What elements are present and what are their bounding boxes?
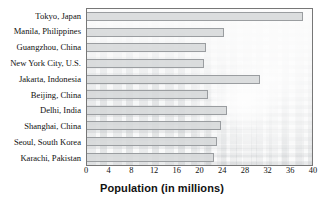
x-tick-label: 24 <box>218 166 226 175</box>
bar[interactable] <box>87 75 260 84</box>
category-label: Seoul, South Korea <box>0 134 84 150</box>
bar-row <box>87 56 312 72</box>
x-tick-label: 40 <box>309 166 317 175</box>
x-tick-label: 36 <box>286 166 294 175</box>
bar[interactable] <box>87 43 206 52</box>
category-label: Guangzhou, China <box>0 40 84 56</box>
x-tick-label: 0 <box>84 166 88 175</box>
x-tick-label: 20 <box>195 166 203 175</box>
category-label: Tokyo, Japan <box>0 8 84 24</box>
x-tick-label: 8 <box>129 166 133 175</box>
bar[interactable] <box>87 121 221 130</box>
category-axis-labels: Tokyo, JapanManila, PhilippinesGuangzhou… <box>0 8 84 166</box>
category-label: New York City, U.S. <box>0 55 84 71</box>
bar-row <box>87 149 312 165</box>
x-axis-title: Population (in millions) <box>0 182 324 194</box>
bar[interactable] <box>87 59 204 68</box>
x-tick-label: 4 <box>107 166 111 175</box>
bar[interactable] <box>87 137 217 146</box>
bar-row <box>87 103 312 119</box>
bar-row <box>87 25 312 41</box>
category-label: Jakarta, Indonesia <box>0 71 84 87</box>
bar[interactable] <box>87 90 208 99</box>
bar-row <box>87 71 312 87</box>
bar-row <box>87 40 312 56</box>
bar[interactable] <box>87 12 303 21</box>
x-tick-label: 12 <box>150 166 158 175</box>
bar-series <box>87 9 312 165</box>
plot-area <box>86 8 313 166</box>
category-label: Manila, Philippines <box>0 24 84 40</box>
bar[interactable] <box>87 153 214 162</box>
value-axis-ticks: 0481216202428323640 <box>86 166 313 180</box>
bar[interactable] <box>87 28 224 37</box>
category-label: Delhi, India <box>0 103 84 119</box>
bar-row <box>87 118 312 134</box>
x-tick-label: 32 <box>263 166 271 175</box>
category-label: Karachi, Pakistan <box>0 150 84 166</box>
x-tick-label: 28 <box>241 166 249 175</box>
category-label: Shanghai, China <box>0 119 84 135</box>
x-tick-label: 16 <box>173 166 181 175</box>
chart-container: Tokyo, JapanManila, PhilippinesGuangzhou… <box>0 0 324 204</box>
bar-row <box>87 87 312 103</box>
bar-row <box>87 134 312 150</box>
bar[interactable] <box>87 106 227 115</box>
category-label: Beijing, China <box>0 87 84 103</box>
bar-row <box>87 9 312 25</box>
